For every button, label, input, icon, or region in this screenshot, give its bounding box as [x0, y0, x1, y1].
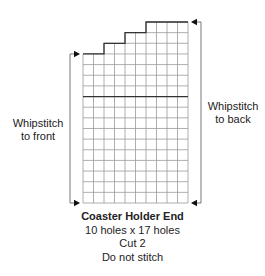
caption-note: Do not stitch	[0, 251, 265, 265]
right-label-line-1: Whipstitch	[202, 100, 264, 113]
arrow-right-icon	[74, 51, 80, 57]
left-label-line-2: to front	[8, 130, 68, 143]
caption-size: 10 holes x 17 holes	[0, 224, 265, 238]
arrow-left-icon	[191, 19, 197, 25]
arrow-left-icon	[191, 200, 197, 206]
right-label-whipstitch-to-back: Whipstitch to back	[202, 100, 264, 126]
right-label-line-2: to back	[202, 113, 264, 126]
arrow-right-icon	[74, 200, 80, 206]
caption-title: Coaster Holder End	[0, 210, 265, 224]
left-label-line-1: Whipstitch	[8, 117, 68, 130]
caption-cut: Cut 2	[0, 237, 265, 251]
left-label-whipstitch-to-front: Whipstitch to front	[8, 117, 68, 143]
caption: Coaster Holder End 10 holes x 17 holes C…	[0, 210, 265, 264]
